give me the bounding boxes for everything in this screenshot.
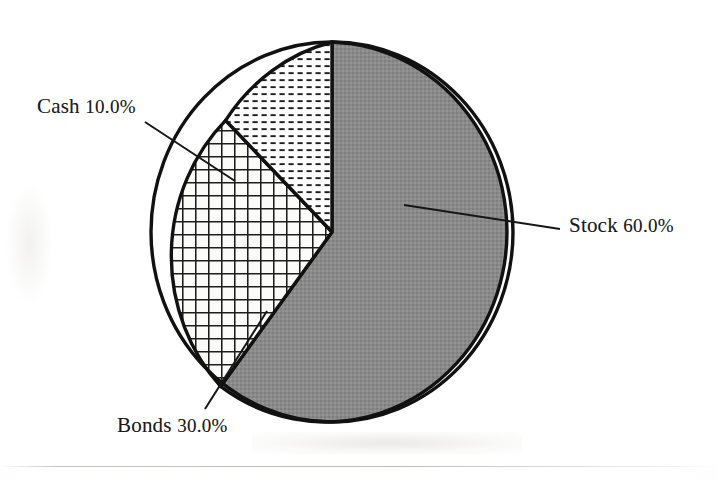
pie-label-cash: Cash 10.0% — [37, 95, 136, 117]
pie-label-bonds-value: 30.0% — [177, 415, 228, 436]
pie-label-cash-name: Cash — [37, 94, 80, 118]
pie-chart — [0, 0, 717, 480]
pie-label-cash-value: 10.0% — [85, 96, 136, 117]
pie-label-bonds: Bonds 30.0% — [117, 414, 228, 436]
pie-label-stock-value: 60.0% — [623, 215, 674, 236]
pie-label-stock: Stock 60.0% — [569, 214, 674, 236]
pie-label-stock-name: Stock — [569, 213, 618, 237]
pie-label-bonds-name: Bonds — [117, 413, 172, 437]
pie-chart-page: Cash 10.0% Stock 60.0% Bonds 30.0% — [0, 0, 717, 480]
